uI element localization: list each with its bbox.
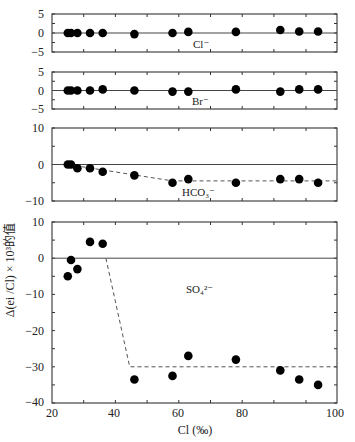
x-axis-title: Cl (‰) xyxy=(178,423,212,437)
data-point xyxy=(73,265,82,274)
panel-frame xyxy=(52,222,337,403)
panel-label-hco3: HCO₃⁻ xyxy=(182,186,215,198)
data-point xyxy=(184,352,193,361)
ytick-label: 0 xyxy=(38,26,44,40)
xtick-label: 40 xyxy=(108,406,120,420)
panel-label-so4: SO₄²⁻ xyxy=(186,283,213,295)
xtick-label: 100 xyxy=(326,406,344,420)
data-point xyxy=(184,28,193,37)
data-point xyxy=(98,168,107,177)
data-point xyxy=(130,375,139,384)
data-point xyxy=(168,372,177,381)
panel-label-cl: Cl⁻ xyxy=(193,38,209,50)
data-point xyxy=(73,86,82,95)
ytick-label: −40 xyxy=(25,395,44,409)
data-point xyxy=(130,30,139,39)
data-point xyxy=(276,175,285,184)
data-point xyxy=(168,29,177,38)
ytick-label: 10 xyxy=(32,121,44,135)
data-point xyxy=(314,381,323,390)
xtick-label: 80 xyxy=(236,406,248,420)
data-point xyxy=(130,86,139,95)
data-point xyxy=(232,179,241,188)
panel-label-br: Br⁻ xyxy=(192,95,209,107)
trend-line xyxy=(106,258,337,367)
ytick-label: −5 xyxy=(31,45,44,59)
data-point xyxy=(314,27,323,36)
data-point xyxy=(67,256,76,265)
y-axis-title: Δ(ei /Cl) × 10³的值 xyxy=(2,223,17,317)
data-point xyxy=(98,239,107,248)
data-point xyxy=(276,366,285,375)
data-point xyxy=(98,85,107,94)
ytick-label: 5 xyxy=(38,65,44,79)
data-point xyxy=(232,355,241,364)
data-point xyxy=(86,29,95,38)
ytick-label: −20 xyxy=(25,324,44,338)
data-point xyxy=(314,85,323,94)
data-point xyxy=(86,164,95,173)
ytick-label: 0 xyxy=(38,251,44,265)
ytick-label: 0 xyxy=(38,84,44,98)
data-point xyxy=(232,28,241,37)
ytick-label: −5 xyxy=(31,102,44,116)
ytick-label: −10 xyxy=(25,194,44,208)
data-point xyxy=(73,29,82,38)
ytick-label: 10 xyxy=(32,215,44,229)
data-point xyxy=(295,175,304,184)
data-point xyxy=(276,87,285,96)
data-point xyxy=(130,171,139,180)
data-point xyxy=(276,26,285,35)
data-point xyxy=(73,164,82,173)
data-point xyxy=(86,238,95,247)
data-point xyxy=(168,179,177,188)
ytick-label: 5 xyxy=(38,7,44,21)
ytick-label: −10 xyxy=(25,287,44,301)
chart-figure: 5 0 −5 5 0 −5 10 0 −10 10 0 −10 −20 −30 … xyxy=(0,0,355,442)
data-point xyxy=(295,85,304,94)
data-point xyxy=(184,175,193,184)
data-point xyxy=(98,29,107,38)
data-point xyxy=(295,27,304,36)
data-point xyxy=(232,85,241,94)
xtick-label: 20 xyxy=(46,406,58,420)
data-point xyxy=(64,272,73,281)
panel-so4 xyxy=(52,222,337,403)
data-point xyxy=(314,179,323,188)
ytick-label: 0 xyxy=(38,158,44,172)
data-point xyxy=(86,86,95,95)
ytick-label: −30 xyxy=(25,360,44,374)
data-point xyxy=(168,87,177,96)
data-point xyxy=(295,375,304,384)
xtick-label: 60 xyxy=(172,406,184,420)
